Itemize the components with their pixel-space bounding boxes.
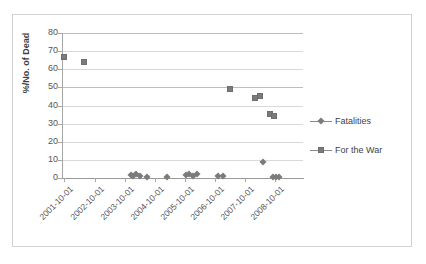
y-tick-mark <box>58 69 62 70</box>
data-point-for-the-war <box>81 59 87 65</box>
x-tick-mark <box>64 178 65 182</box>
y-axis-title: %/No. of Dead <box>21 15 31 111</box>
legend-entry-fatalities[interactable]: Fatalities <box>310 114 371 128</box>
legend-label: Fatalities <box>335 116 371 126</box>
gridline-20 <box>62 142 303 143</box>
y-axis-tick-labels: 01020304050607080 <box>34 33 58 178</box>
legend-label: For the War <box>335 145 382 155</box>
y-tick-label: 70 <box>36 46 58 55</box>
legend-diamond-marker-icon <box>317 117 324 124</box>
y-tick-label: 10 <box>36 155 58 164</box>
y-tick-mark <box>58 124 62 125</box>
y-tick-mark <box>58 33 62 34</box>
chart-legend: FatalitiesFor the War <box>310 114 406 166</box>
x-tick-mark <box>155 178 156 182</box>
gridline-70 <box>62 51 303 52</box>
x-tick-mark <box>245 178 246 182</box>
y-tick-label: 50 <box>36 82 58 91</box>
legend-line-icon <box>310 116 332 126</box>
data-point-for-the-war <box>61 54 67 60</box>
y-tick-mark <box>58 178 62 179</box>
y-tick-mark <box>58 160 62 161</box>
gridline-40 <box>62 106 303 107</box>
data-point-for-the-war <box>271 113 277 119</box>
x-tick-mark <box>215 178 216 182</box>
y-tick-mark <box>58 51 62 52</box>
x-tick-mark <box>125 178 126 182</box>
y-tick-label: 30 <box>36 119 58 128</box>
gridline-50 <box>62 87 303 88</box>
y-tick-label: 60 <box>36 64 58 73</box>
gridline-10 <box>62 160 303 161</box>
y-tick-label: 0 <box>36 173 58 182</box>
legend-line-icon <box>310 145 332 155</box>
gridline-80 <box>62 33 303 34</box>
legend-square-marker-icon <box>318 147 324 153</box>
y-tick-label: 80 <box>36 28 58 37</box>
y-tick-label: 40 <box>36 101 58 110</box>
y-tick-label: 20 <box>36 137 58 146</box>
plot-area <box>62 33 303 178</box>
chart-figure: %/No. of Dead 01020304050607080 2001-10-… <box>0 0 426 264</box>
x-axis-line <box>62 178 304 179</box>
x-tick-mark <box>95 178 96 182</box>
legend-entry-for-the-war[interactable]: For the War <box>310 143 382 157</box>
y-tick-mark <box>58 87 62 88</box>
gridline-60 <box>62 69 303 70</box>
data-point-for-the-war <box>257 93 263 99</box>
gridline-30 <box>62 124 303 125</box>
x-axis-tick-labels: 2001-10-012002-10-012003-10-012004-10-01… <box>0 184 320 242</box>
data-point-for-the-war <box>227 86 233 92</box>
y-tick-mark <box>58 142 62 143</box>
y-tick-mark <box>58 106 62 107</box>
